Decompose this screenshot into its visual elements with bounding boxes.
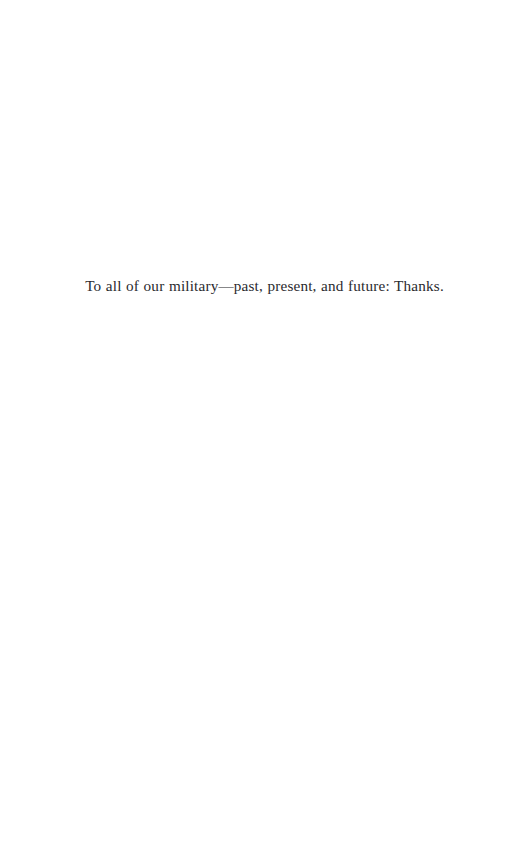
dedication-block: To all of our military—past, present, an…: [0, 276, 529, 295]
dedication-text: To all of our military—past, present, an…: [85, 276, 444, 295]
page-canvas: To all of our military—past, present, an…: [0, 0, 529, 861]
